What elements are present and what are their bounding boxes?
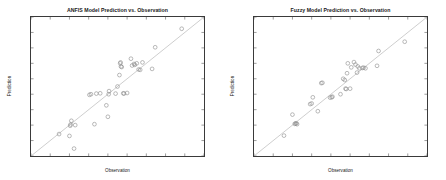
plot-area-fuzzy: 3540455055606570758035404550556065707580 [253,16,428,157]
plot-area-anfis: 3540455055606570758035404550556065707580 [30,16,205,157]
axis-ticks-fuzzy: 3540455055606570758035404550556065707580 [254,17,427,156]
chart-panel-anfis: ANFIS Model Prediction vs. Observation 3… [0,0,223,180]
axis-ticks-anfis: 3540455055606570758035404550556065707580 [31,17,204,156]
chart-title-fuzzy: Fuzzy Model Prediction vs. Observation [253,7,428,13]
y-axis-label-anfis: Prediction [7,76,12,96]
y-axis-label-fuzzy: Prediction [230,76,235,96]
chart-title-anfis: ANFIS Model Prediction vs. Observation [30,7,205,13]
figure-canvas: ANFIS Model Prediction vs. Observation 3… [0,0,446,180]
chart-panel-fuzzy: Fuzzy Model Prediction vs. Observation 3… [223,0,446,180]
x-axis-label-fuzzy: Observation [253,168,428,173]
x-axis-label-anfis: Observation [30,168,205,173]
